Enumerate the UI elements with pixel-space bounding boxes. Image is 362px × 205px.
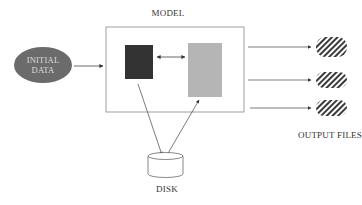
output-file-3 <box>316 100 347 116</box>
disk-cylinder-icon <box>148 153 183 178</box>
initial-data-label-line2: DATA <box>32 65 55 75</box>
model-label: MODEL <box>152 8 185 18</box>
output-file-2 <box>316 72 347 88</box>
output-file-1 <box>316 37 347 57</box>
output-files-label: OUTPUT FILES <box>298 130 362 140</box>
dark-memory-block <box>125 45 153 79</box>
light-memory-block <box>188 43 222 97</box>
initial-data-label-line1: INITIAL <box>27 55 60 65</box>
disk-label: DISK <box>156 184 178 194</box>
